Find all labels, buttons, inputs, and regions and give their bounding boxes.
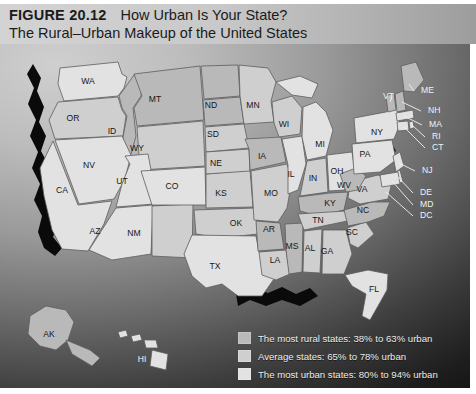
- state-label-SC: SC: [346, 227, 358, 237]
- state-label-SD: SD: [207, 129, 219, 139]
- state-label-UT: UT: [116, 176, 128, 186]
- legend-swatch-urban: [238, 368, 251, 380]
- state-label-MD: MD: [420, 199, 433, 209]
- legend-label-urban: The most urban states: 80% to 94% urban: [258, 369, 438, 380]
- state-label-WV: WV: [337, 180, 351, 190]
- state-label-DC: DC: [420, 210, 432, 220]
- state-label-CA: CA: [56, 185, 68, 195]
- state-label-RI: RI: [432, 131, 441, 141]
- figure-title: How Urban Is Your State?: [121, 7, 288, 23]
- legend-item: The most rural states: 38% to 63% urban: [238, 330, 470, 346]
- state-label-NV: NV: [83, 160, 95, 170]
- state-HI-3: [144, 340, 158, 348]
- state-HI-4: [150, 350, 168, 370]
- state-label-VT: VT: [383, 91, 395, 101]
- state-HI-1: [118, 330, 128, 338]
- state-label-MA: MA: [429, 119, 442, 129]
- state-label-ID: ID: [108, 126, 117, 136]
- state-label-MN: MN: [246, 100, 259, 110]
- state-label-IA: IA: [258, 151, 266, 161]
- state-label-NM: NM: [127, 228, 140, 238]
- legend-item: Average states: 65% to 78% urban: [238, 348, 470, 364]
- state-label-WA: WA: [81, 76, 95, 86]
- state-label-MS: MS: [286, 241, 299, 251]
- state-OK: [194, 208, 258, 238]
- state-label-PA: PA: [360, 149, 371, 159]
- state-MI-up: [276, 76, 318, 98]
- figure-title-line: FIGURE 20.12How Urban Is Your State?: [9, 7, 287, 23]
- map-legend: The most rural states: 38% to 63% urban …: [238, 330, 470, 384]
- state-label-FL: FL: [369, 284, 379, 294]
- state-label-NY: NY: [371, 127, 383, 137]
- state-label-VA: VA: [357, 184, 368, 194]
- state-label-WI: WI: [279, 119, 290, 129]
- state-label-ND: ND: [205, 100, 217, 110]
- state-label-NC: NC: [357, 205, 369, 215]
- state-label-OK: OK: [230, 218, 243, 228]
- state-label-NH: NH: [428, 105, 440, 115]
- legend-label-rural: The most rural states: 38% to 63% urban: [258, 333, 432, 344]
- state-AK-panhandle: [66, 340, 100, 366]
- state-NJ: [393, 152, 404, 172]
- state-HI-2: [131, 334, 142, 342]
- legend-swatch-average: [238, 350, 251, 362]
- state-NY: [354, 106, 400, 143]
- state-label-IL: IL: [287, 169, 294, 179]
- figure-title-bar: FIGURE 20.12How Urban Is Your State? The…: [0, 4, 476, 44]
- state-ND: [201, 65, 240, 99]
- state-label-MO: MO: [264, 188, 278, 198]
- state-label-LA: LA: [270, 255, 281, 265]
- state-label-TN: TN: [312, 215, 323, 225]
- figure-subtitle-line: The Rural–Urban Makeup of the United Sta…: [9, 25, 307, 41]
- state-WI: [272, 96, 302, 137]
- state-label-GA: GA: [321, 246, 334, 256]
- state-label-OH: OH: [331, 166, 344, 176]
- state-label-MI: MI: [315, 139, 325, 149]
- state-MD: [380, 172, 400, 187]
- state-label-IN: IN: [309, 173, 318, 183]
- legend-swatch-rural: [238, 332, 251, 344]
- state-RI: [409, 121, 414, 129]
- state-label-HI: HI: [138, 354, 147, 364]
- state-label-KS: KS: [215, 188, 227, 198]
- state-label-KY: KY: [324, 198, 336, 208]
- state-label-AR: AR: [263, 224, 275, 234]
- state-label-TX: TX: [210, 261, 221, 271]
- state-NH: [395, 91, 406, 112]
- state-label-ME: ME: [421, 85, 434, 95]
- figure-container: FIGURE 20.12How Urban Is Your State? The…: [0, 0, 476, 394]
- state-label-NE: NE: [210, 158, 222, 168]
- legend-item: The most urban states: 80% to 94% urban: [238, 366, 470, 382]
- state-TN: [298, 211, 352, 230]
- state-KS: [206, 170, 253, 208]
- legend-label-average: Average states: 65% to 78% urban: [258, 351, 406, 362]
- figure-subtitle: The Rural–Urban Makeup of the United Sta…: [9, 25, 307, 41]
- state-MN: [239, 65, 276, 124]
- state-FL: [345, 270, 388, 320]
- state-MI: [302, 102, 333, 160]
- state-CT: [397, 121, 409, 131]
- state-label-AZ: AZ: [90, 226, 101, 236]
- state-label-MT: MT: [149, 94, 162, 104]
- state-label-CO: CO: [166, 181, 179, 191]
- state-label-OR: OR: [67, 113, 80, 123]
- state-label-CT: CT: [432, 142, 444, 152]
- state-label-AL: AL: [305, 243, 316, 253]
- state-label-WY: WY: [130, 143, 144, 153]
- state-MT: [134, 66, 204, 126]
- state-label-AK: AK: [43, 329, 55, 339]
- state-label-DE: DE: [420, 187, 432, 197]
- figure-number: FIGURE 20.12: [9, 7, 107, 23]
- state-shapes-west: [40, 62, 206, 260]
- state-label-NJ: NJ: [422, 165, 433, 175]
